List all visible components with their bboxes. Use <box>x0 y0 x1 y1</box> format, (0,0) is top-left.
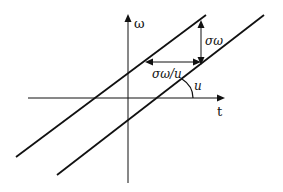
diagram-canvas: ω t σω σω/u u <box>0 0 283 192</box>
upper-diagonal-line <box>16 15 206 157</box>
vertical-offset-label: σω <box>205 34 223 48</box>
angle-label: u <box>194 79 202 93</box>
lower-diagonal-line <box>57 15 264 175</box>
omega-axis-arrow-icon <box>125 14 132 22</box>
horizontal-offset-arrow <box>145 59 201 66</box>
t-axis-label: t <box>217 104 223 119</box>
t-axis <box>28 95 225 102</box>
horizontal-offset-label: σω/u <box>152 67 182 81</box>
vertical-offset-arrow <box>198 20 205 65</box>
angle-arc <box>182 79 193 98</box>
t-axis-arrow-icon <box>217 95 225 102</box>
omega-axis-label: ω <box>134 16 145 31</box>
